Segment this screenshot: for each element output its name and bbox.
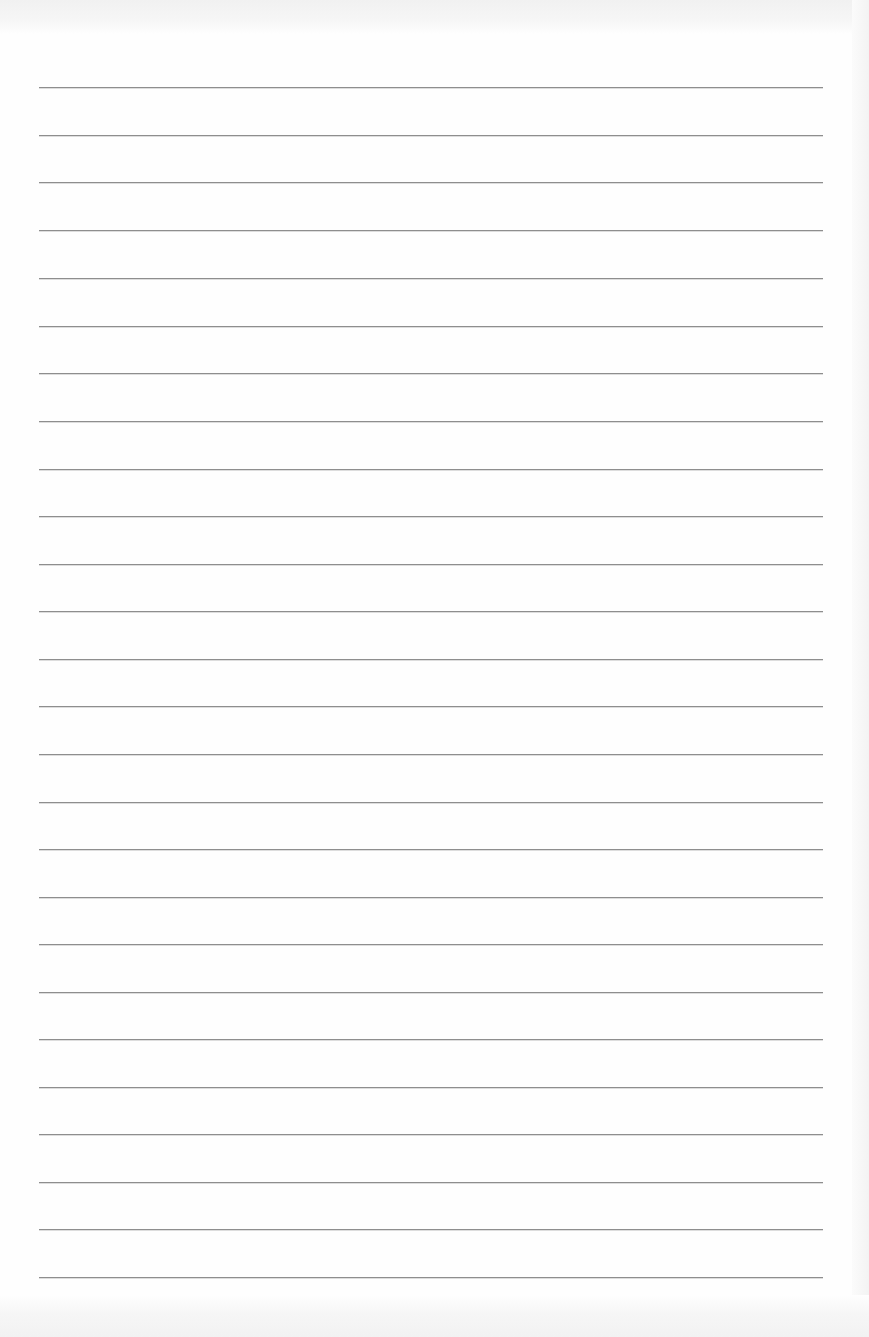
- ruled-line: [39, 754, 823, 755]
- ruled-line: [39, 1087, 823, 1088]
- ruled-line: [39, 326, 823, 327]
- ruled-line: [39, 1182, 823, 1183]
- ruled-line: [39, 278, 823, 279]
- ruled-line: [39, 373, 823, 374]
- ruled-line: [39, 944, 823, 945]
- ruled-line: [39, 182, 823, 183]
- ruled-line: [39, 992, 823, 993]
- ruled-line: [39, 230, 823, 231]
- ruled-line: [39, 1134, 823, 1135]
- ruled-line: [39, 849, 823, 850]
- ruled-line: [39, 516, 823, 517]
- ruled-line: [39, 87, 823, 88]
- lined-paper-page: [0, 0, 869, 1337]
- ruled-line: [39, 659, 823, 660]
- ruled-line: [39, 469, 823, 470]
- ruled-line: [39, 1039, 823, 1040]
- ruled-line: [39, 1229, 823, 1230]
- ruled-line: [39, 706, 823, 707]
- ruled-line: [39, 564, 823, 565]
- ruled-line: [39, 421, 823, 422]
- ruled-lines: [0, 0, 869, 1337]
- ruled-line: [39, 897, 823, 898]
- ruled-line: [39, 135, 823, 136]
- ruled-line: [39, 802, 823, 803]
- ruled-line: [39, 611, 823, 612]
- ruled-line: [39, 1277, 823, 1278]
